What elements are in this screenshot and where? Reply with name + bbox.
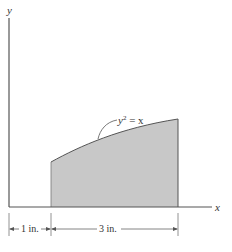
- area-diagram: y x y2 = x 1 in. 3 in.: [0, 0, 232, 252]
- shaded-region: [51, 119, 178, 207]
- dimension-3in-label: 3 in.: [99, 223, 117, 234]
- y-axis-label: y: [6, 4, 12, 16]
- dimension-1in-label: 1 in.: [21, 223, 39, 234]
- x-axis-label: x: [214, 201, 220, 213]
- dimension-3in: 3 in.: [51, 223, 178, 234]
- dimension-1in: 1 in.: [9, 223, 51, 234]
- equation-rhs: = x: [126, 114, 144, 126]
- curve-equation-label: y2 = x: [117, 114, 144, 126]
